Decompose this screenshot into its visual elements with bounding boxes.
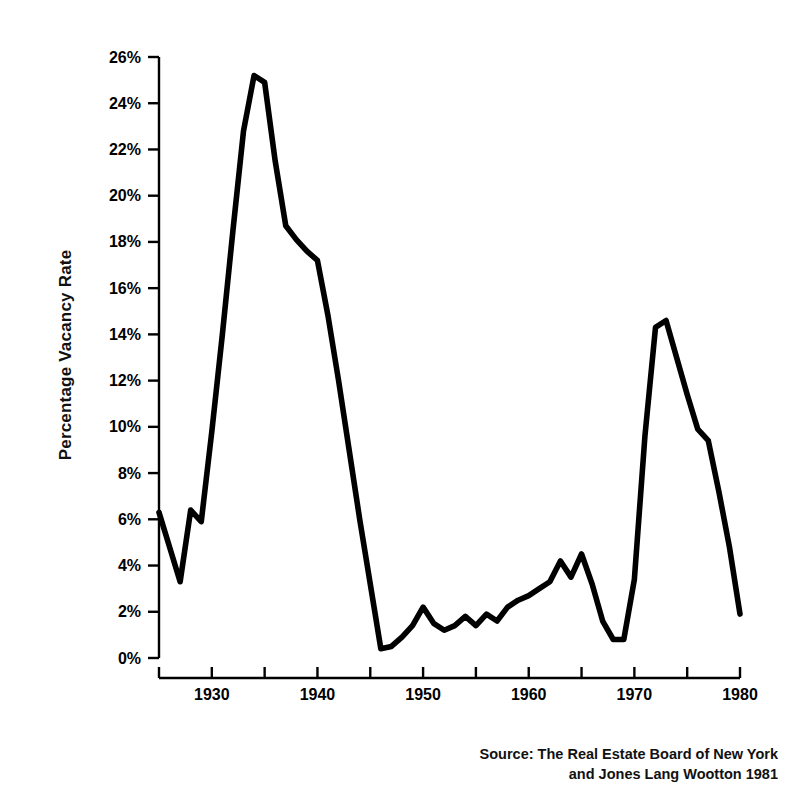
y-tick-label: 20% bbox=[109, 187, 141, 204]
y-tick-label: 2% bbox=[118, 603, 141, 620]
y-tick-label: 18% bbox=[109, 233, 141, 250]
y-tick-label: 16% bbox=[109, 280, 141, 297]
y-tick-label: 8% bbox=[118, 465, 141, 482]
y-axis: 0%2%4%6%8%10%12%14%16%18%20%22%24%26% bbox=[109, 49, 159, 667]
y-axis-title: Percentage Vacancy Rate bbox=[56, 165, 76, 545]
x-tick-label: 1970 bbox=[617, 686, 653, 703]
y-tick-label: 12% bbox=[109, 372, 141, 389]
data-series-line bbox=[159, 75, 740, 648]
x-tick-label: 1980 bbox=[722, 686, 758, 703]
y-tick-label: 6% bbox=[118, 511, 141, 528]
y-tick-label: 26% bbox=[109, 49, 141, 66]
x-tick-label: 1960 bbox=[511, 686, 547, 703]
source-line-1: Source: The Real Estate Board of New Yor… bbox=[258, 745, 778, 765]
x-tick-label: 1930 bbox=[194, 686, 230, 703]
y-tick-label: 14% bbox=[109, 326, 141, 343]
x-tick-label: 1940 bbox=[300, 686, 336, 703]
y-tick-label: 22% bbox=[109, 141, 141, 158]
source-caption: Source: The Real Estate Board of New Yor… bbox=[258, 745, 778, 784]
source-line-2: and Jones Lang Wootton 1981 bbox=[258, 765, 778, 785]
y-tick-label: 4% bbox=[118, 557, 141, 574]
y-tick-label: 10% bbox=[109, 418, 141, 435]
x-tick-label: 1950 bbox=[405, 686, 441, 703]
y-tick-label: 0% bbox=[118, 650, 141, 667]
chart-plot-area: 0%2%4%6%8%10%12%14%16%18%20%22%24%26% 19… bbox=[0, 0, 800, 740]
vacancy-rate-chart-figure: Percentage Vacancy Rate 0%2%4%6%8%10%12%… bbox=[0, 0, 800, 801]
x-axis: 193019401950196019701980 bbox=[159, 667, 758, 703]
series-path bbox=[159, 75, 740, 648]
y-tick-label: 24% bbox=[109, 95, 141, 112]
